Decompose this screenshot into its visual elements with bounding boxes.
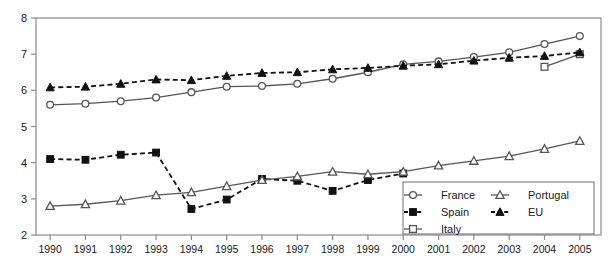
data-point-marker — [329, 187, 336, 194]
data-point-marker — [81, 83, 89, 91]
data-point-marker — [541, 41, 548, 48]
series-line — [50, 52, 580, 87]
data-point-marker — [188, 206, 195, 213]
data-point-marker — [153, 94, 160, 101]
legend-marker — [410, 226, 417, 233]
x-axis-tick-label: 2005 — [568, 243, 592, 255]
x-axis-tick-label: 1990 — [38, 243, 62, 255]
data-point-marker — [541, 63, 548, 70]
data-point-marker — [576, 137, 584, 145]
x-axis-tick-label: 1998 — [321, 243, 345, 255]
x-axis-tick-label: 1996 — [250, 243, 274, 255]
x-axis-tick-label: 1997 — [286, 243, 310, 255]
data-point-marker — [117, 151, 124, 158]
y-axis-tick-label: 7 — [21, 48, 27, 60]
x-axis-tick-label: 1991 — [74, 243, 98, 255]
data-point-marker — [223, 83, 230, 90]
data-point-marker — [576, 33, 583, 40]
x-axis-tick-label: 2002 — [462, 243, 486, 255]
y-axis-tick-label: 2 — [21, 229, 27, 241]
data-point-marker — [47, 101, 54, 108]
legend-label: Italy — [441, 223, 462, 235]
data-point-marker — [188, 89, 195, 96]
legend-label: EU — [528, 206, 543, 218]
data-point-marker — [153, 149, 160, 156]
x-axis-tick-label: 2000 — [392, 243, 416, 255]
data-point-marker — [329, 75, 336, 82]
legend-label: France — [441, 189, 475, 201]
x-axis-tick-label: 2004 — [533, 243, 557, 255]
x-axis-tick-label: 1994 — [180, 243, 204, 255]
data-point-marker — [259, 83, 266, 90]
y-axis-tick-label: 4 — [21, 157, 27, 169]
series-eu — [46, 48, 584, 91]
x-axis-tick-label: 2003 — [498, 243, 522, 255]
legend-label: Spain — [441, 206, 469, 218]
x-axis-tick-label: 1995 — [215, 243, 239, 255]
data-point-marker — [82, 100, 89, 107]
x-axis-tick-label: 1992 — [109, 243, 133, 255]
data-point-marker — [187, 76, 195, 84]
y-axis-tick-label: 8 — [21, 12, 27, 24]
data-point-marker — [47, 156, 54, 163]
line-chart-canvas: 2345678199019911992199319941995199619971… — [0, 0, 615, 264]
legend-marker — [410, 209, 417, 216]
data-point-marker — [82, 156, 89, 163]
x-axis-tick-label: 2001 — [427, 243, 451, 255]
chart-figure: 2345678199019911992199319941995199619971… — [0, 0, 615, 264]
data-point-marker — [294, 80, 301, 87]
y-axis-tick-label: 5 — [21, 121, 27, 133]
legend-marker — [410, 192, 417, 199]
data-point-marker — [223, 196, 230, 203]
legend-label: Portugal — [528, 189, 569, 201]
x-axis-tick-label: 1993 — [144, 243, 168, 255]
chart-legend: FrancePortugalSpainEUItaly — [403, 182, 594, 235]
data-point-marker — [117, 98, 124, 105]
y-axis-tick-label: 3 — [21, 193, 27, 205]
y-axis-tick-label: 6 — [21, 84, 27, 96]
x-axis-tick-label: 1999 — [356, 243, 380, 255]
